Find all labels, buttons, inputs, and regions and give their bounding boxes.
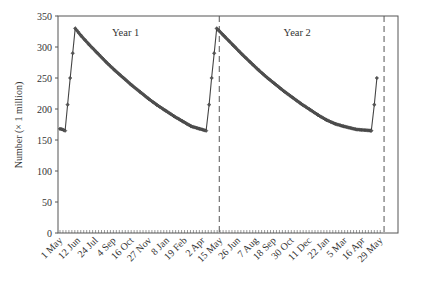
y-tick-label: 50 xyxy=(42,197,52,208)
population-line-chart: 050100150200250300350 1 May12 Jun24 Jul4… xyxy=(0,0,425,281)
data-series xyxy=(58,27,378,133)
series-line xyxy=(60,28,377,130)
y-tick-label: 300 xyxy=(37,42,52,53)
y-tick-label: 150 xyxy=(37,135,52,146)
year-label: Year 2 xyxy=(284,27,311,38)
diamond-marker xyxy=(68,76,72,80)
diamond-marker xyxy=(375,76,379,80)
year-label: Year 1 xyxy=(112,27,139,38)
year-divider-lines xyxy=(219,16,384,233)
y-tick-label: 250 xyxy=(37,73,52,84)
diamond-marker xyxy=(66,103,70,107)
y-tick-label: 100 xyxy=(37,166,52,177)
plot-frame xyxy=(58,16,398,233)
y-axis: 050100150200250300350 xyxy=(37,11,58,239)
diamond-marker xyxy=(212,51,216,55)
diamond-marker xyxy=(210,76,214,80)
diamond-marker xyxy=(207,103,211,107)
x-axis: 1 May12 Jun24 Jul4 Sep16 Oct27 Nov8 Jan1… xyxy=(38,230,384,264)
y-tick-label: 0 xyxy=(47,228,52,239)
y-tick-label: 350 xyxy=(37,11,52,22)
diamond-marker xyxy=(373,103,377,107)
year-annotations: Year 1Year 2 xyxy=(112,27,311,38)
y-tick-label: 200 xyxy=(37,104,52,115)
y-axis-title: Number (× 1 million) xyxy=(13,82,25,168)
diamond-marker xyxy=(71,51,75,55)
